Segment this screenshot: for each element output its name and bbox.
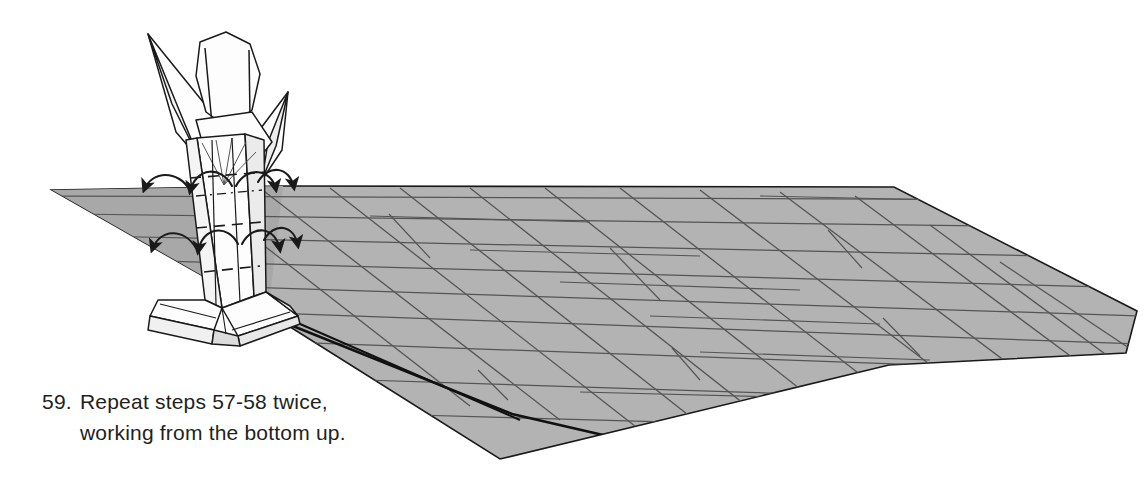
step-number: 59. — [42, 386, 80, 417]
caption-line-1: Repeat steps 57-58 twice, — [80, 386, 328, 417]
head-crease-right — [249, 50, 250, 118]
step-caption: 59.Repeat steps 57-58 twice, working fro… — [42, 386, 462, 448]
diagram-page: 59.Repeat steps 57-58 twice, working fro… — [0, 0, 1144, 489]
caption-first-row: 59.Repeat steps 57-58 twice, — [42, 386, 462, 417]
caption-line-2: working from the bottom up. — [80, 417, 462, 448]
